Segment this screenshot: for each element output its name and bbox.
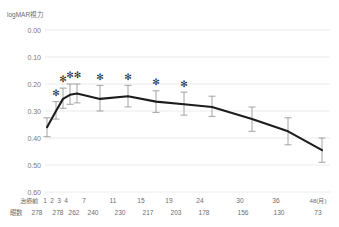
x-tick-4: 4 xyxy=(64,197,68,204)
y-axis-tick-labels: 0.00 0.10 0.20 0.30 0.40 0.50 0.60 xyxy=(27,27,41,196)
y-tick-3: 0.30 xyxy=(27,108,41,115)
x-tick-36: 36 xyxy=(272,197,280,204)
y-tick-6: 0.60 xyxy=(27,189,41,196)
x-tick-15: 15 xyxy=(137,197,145,204)
eye-count-48: 73 xyxy=(314,209,322,216)
star-month-15: ✻ xyxy=(152,77,160,87)
x-axis-tick-labels: 治療前 1 2 3 4 7 11 15 19 24 30 36 48(月) xyxy=(20,197,327,205)
y-tick-0: 0.00 xyxy=(27,27,41,34)
eye-count-30: 156 xyxy=(237,209,248,216)
eye-count-24: 178 xyxy=(198,209,209,216)
x-tick-19: 19 xyxy=(165,197,173,204)
eye-count-row-label: 眼数 xyxy=(10,208,23,217)
x-tick-pre-treatment: 治療前 xyxy=(20,197,38,205)
x-tick-11: 11 xyxy=(110,197,117,204)
y-tick-5: 0.50 xyxy=(27,162,41,169)
star-month-7: ✻ xyxy=(96,72,104,82)
eye-count-19: 203 xyxy=(170,209,181,216)
star-month-3: ✻ xyxy=(66,70,74,80)
y-tick-2: 0.20 xyxy=(27,81,41,88)
star-month-19: ✻ xyxy=(180,79,188,89)
x-tick-2: 2 xyxy=(50,197,54,204)
y-tick-1: 0.10 xyxy=(27,54,41,61)
eye-count-row: 眼数 278 278 262 240 230 217 203 178 156 1… xyxy=(10,208,322,217)
eye-count-pre-treatment: 278 xyxy=(31,209,42,216)
x-tick-48-months: 48(月) xyxy=(309,197,326,205)
data-series-line xyxy=(47,94,322,151)
x-tick-1: 1 xyxy=(43,197,47,204)
x-tick-3: 3 xyxy=(57,197,61,204)
x-tick-7: 7 xyxy=(82,197,86,204)
x-tick-24: 24 xyxy=(196,197,204,204)
star-month-4: ✻ xyxy=(74,70,82,80)
star-month-11: ✻ xyxy=(124,72,132,82)
eye-count-11: 230 xyxy=(114,209,125,216)
eye-count-3: 262 xyxy=(68,209,79,216)
star-month-1: ✻ xyxy=(52,88,60,98)
eye-count-15: 217 xyxy=(142,209,153,216)
y-tick-4: 0.40 xyxy=(27,135,41,142)
eye-count-7: 240 xyxy=(87,209,98,216)
chart-plot-svg: 0.00 0.10 0.20 0.30 0.40 0.50 0.60 xyxy=(0,0,339,227)
gridlines xyxy=(45,30,330,192)
x-tick-30: 30 xyxy=(236,197,244,204)
eye-count-2: 278 xyxy=(52,209,63,216)
eye-count-36: 130 xyxy=(273,209,284,216)
chart-container: logMAR視力 0.00 0.10 0.20 0.30 0.40 0.50 0… xyxy=(0,0,339,227)
